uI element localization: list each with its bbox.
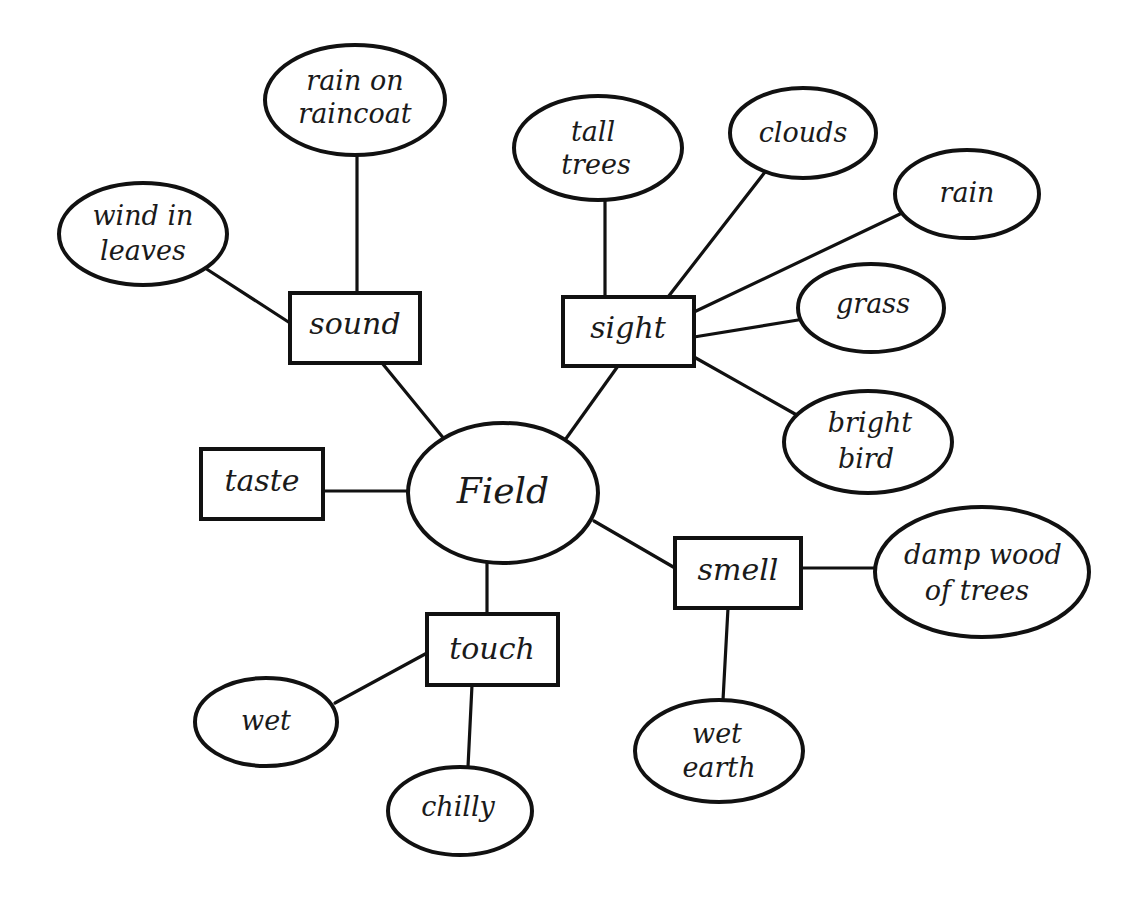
node-clouds: clouds (730, 88, 876, 178)
damp-wood-line2: of trees (925, 575, 1029, 606)
edge-touch-wet (335, 653, 427, 703)
edge-smell-wet-earth (723, 608, 728, 700)
node-wet: wet (195, 678, 337, 766)
edge-sight-clouds (668, 172, 765, 297)
node-rain-on-raincoat: rain on raincoat (265, 45, 445, 155)
grass-label: grass (836, 288, 910, 319)
wet-label: wet (241, 705, 291, 736)
node-sound: sound (290, 293, 420, 363)
node-smell: smell (675, 538, 801, 608)
edge-field-sound (382, 363, 445, 440)
field-label: Field (456, 470, 549, 511)
concept-web-diagram: Field sound sight taste smell touch rain… (0, 0, 1145, 900)
edge-field-smell (594, 521, 675, 568)
edge-sight-grass (694, 320, 798, 337)
sight-label: sight (590, 310, 667, 345)
node-field: Field (408, 423, 598, 563)
node-touch: touch (427, 614, 558, 685)
edge-sound-wind-in-leaves (205, 268, 290, 323)
tall-trees-line1: tall (571, 116, 615, 147)
rain-on-raincoat-line2: raincoat (298, 98, 412, 129)
node-wet-earth: wet earth (635, 700, 803, 802)
chilly-label: chilly (421, 791, 495, 822)
edge-touch-chilly (468, 685, 472, 767)
node-sight: sight (563, 297, 694, 366)
sound-label: sound (309, 306, 400, 341)
damp-wood-ellipse (875, 507, 1089, 637)
wind-in-leaves-line1: wind in (92, 200, 193, 231)
edge-sight-bright-bird (694, 357, 795, 414)
rain-on-raincoat-line1: rain on (306, 65, 403, 96)
tall-trees-line2: trees (561, 149, 631, 180)
node-bright-bird: bright bird (784, 391, 952, 493)
node-tall-trees: tall trees (514, 96, 682, 200)
node-damp-wood: damp wood of trees (875, 507, 1089, 637)
edge-field-sight (565, 366, 618, 440)
touch-label: touch (449, 631, 535, 666)
node-chilly: chilly (388, 767, 532, 855)
wet-earth-line2: earth (682, 752, 755, 783)
clouds-label: clouds (759, 117, 848, 148)
wet-earth-line1: wet (692, 718, 742, 749)
smell-label: smell (698, 552, 779, 587)
node-grass: grass (798, 264, 944, 352)
bright-bird-line2: bird (838, 443, 894, 474)
damp-wood-line1: damp wood (904, 539, 1062, 570)
bright-bird-line1: bright (828, 407, 912, 438)
rain-label: rain (939, 177, 994, 208)
node-wind-in-leaves: wind in leaves (59, 183, 227, 285)
wind-in-leaves-line2: leaves (100, 235, 186, 266)
node-taste: taste (201, 449, 323, 519)
node-rain: rain (895, 150, 1039, 238)
taste-label: taste (224, 463, 299, 498)
